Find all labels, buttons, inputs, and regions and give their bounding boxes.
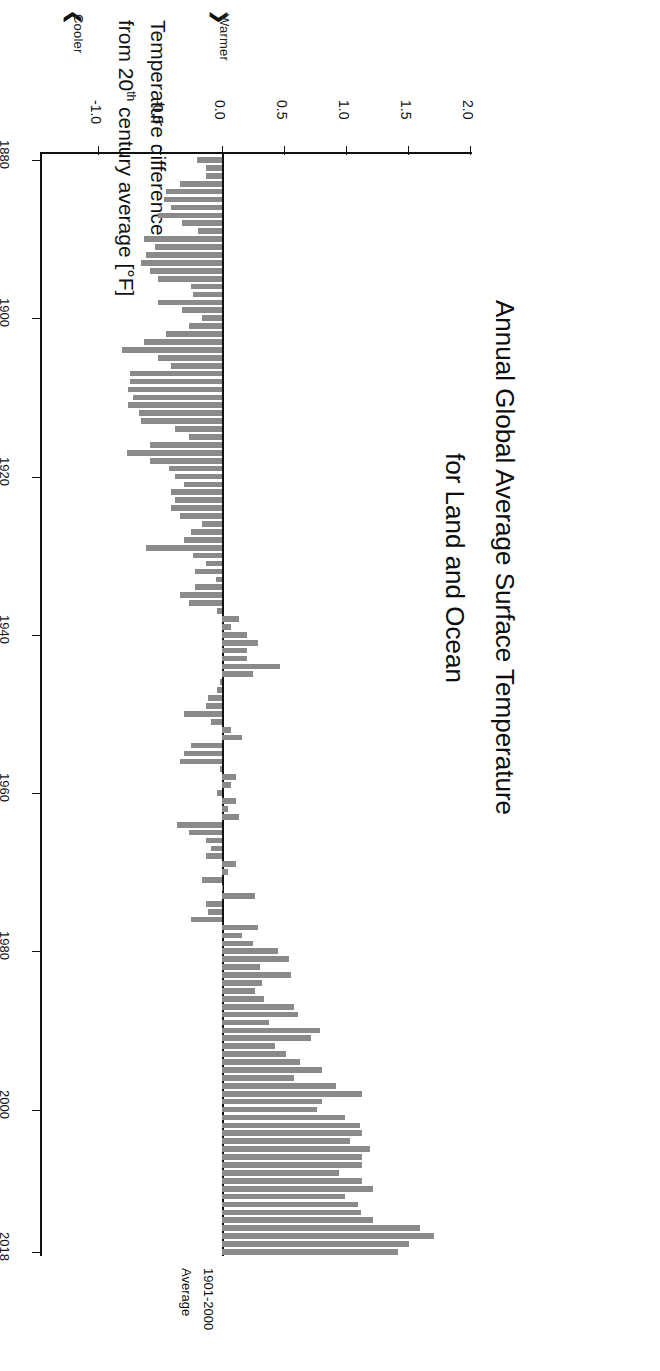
bar	[222, 1099, 322, 1105]
bar	[197, 157, 222, 163]
bar	[191, 284, 222, 290]
bar	[222, 1130, 362, 1136]
bar	[222, 1083, 336, 1089]
bar	[208, 695, 222, 701]
bar	[222, 664, 280, 670]
bar	[222, 727, 231, 733]
bar	[206, 165, 222, 171]
bar	[130, 371, 222, 377]
bar	[150, 458, 222, 464]
bar	[217, 790, 222, 796]
bar	[189, 434, 222, 440]
bar	[206, 561, 222, 567]
bar	[222, 956, 289, 962]
bar	[184, 711, 222, 717]
bar	[222, 632, 247, 638]
bar	[158, 213, 222, 219]
bar	[222, 648, 247, 654]
bar	[193, 553, 222, 559]
bar	[222, 1233, 434, 1239]
bar	[189, 600, 222, 606]
bar	[175, 497, 222, 503]
bar	[222, 1138, 350, 1144]
bar	[217, 687, 222, 693]
bar	[191, 917, 222, 923]
bar	[222, 933, 242, 939]
bar	[202, 521, 222, 527]
bar	[222, 1020, 269, 1026]
bar	[222, 869, 228, 875]
bar	[222, 1241, 409, 1247]
bar	[222, 616, 239, 622]
bar	[191, 529, 222, 535]
bar	[222, 893, 255, 899]
bar	[180, 759, 222, 765]
bar	[193, 292, 222, 298]
bar	[222, 1035, 311, 1041]
bar	[182, 307, 222, 313]
bar	[171, 363, 222, 369]
bar	[211, 719, 222, 725]
bar	[222, 1075, 294, 1081]
bar	[222, 1123, 360, 1129]
bar	[222, 1178, 362, 1184]
bar	[128, 387, 222, 393]
bar	[175, 426, 222, 432]
bar	[189, 323, 222, 329]
bar	[141, 418, 222, 424]
bar	[169, 466, 222, 472]
bar	[164, 197, 222, 203]
bar	[166, 331, 222, 337]
bar	[222, 814, 239, 820]
bar	[189, 830, 222, 836]
bar	[222, 1154, 362, 1160]
bar	[222, 964, 260, 970]
bar	[222, 948, 278, 954]
bar	[222, 1043, 275, 1049]
bar	[195, 569, 222, 575]
bar	[144, 339, 222, 345]
bar	[184, 482, 222, 488]
bar	[171, 505, 222, 511]
bar	[141, 260, 222, 266]
bar	[180, 513, 222, 519]
bar	[184, 751, 222, 757]
bar	[222, 925, 258, 931]
bar	[222, 1091, 362, 1097]
baseline-annotation-line2: Average	[179, 1268, 194, 1316]
bar	[166, 189, 222, 195]
bar	[150, 268, 222, 274]
bar	[222, 671, 253, 677]
bar	[144, 236, 222, 242]
bar	[206, 703, 222, 709]
chart-page: ❮ Cooler ❯ Warmer Temperature difference…	[0, 0, 660, 1371]
bar	[222, 1107, 317, 1113]
bar	[206, 901, 222, 907]
bar	[222, 1051, 286, 1057]
bar	[222, 885, 223, 891]
bar-series	[0, 0, 660, 1371]
bar	[150, 442, 222, 448]
bar	[158, 355, 222, 361]
bar	[222, 624, 231, 630]
bar	[222, 806, 228, 812]
bar	[184, 537, 222, 543]
bar	[217, 608, 222, 614]
bar	[175, 474, 222, 480]
bar	[222, 988, 255, 994]
bar	[222, 972, 291, 978]
bar	[222, 1012, 298, 1018]
bar	[222, 941, 253, 947]
bar	[158, 300, 222, 306]
bar	[177, 822, 222, 828]
bar	[171, 489, 222, 495]
bar	[222, 1186, 373, 1192]
bar	[206, 173, 222, 179]
bar	[122, 347, 222, 353]
bar	[222, 640, 258, 646]
bar	[222, 735, 242, 741]
bar	[222, 996, 264, 1002]
bar	[208, 909, 222, 915]
bar	[128, 402, 222, 408]
bar	[222, 1170, 339, 1176]
